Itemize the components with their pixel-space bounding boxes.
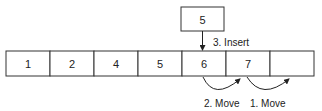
move-arrow-2 [203, 77, 240, 90]
array-cell-value: 7 [245, 58, 251, 70]
array: 124567 [6, 51, 314, 76]
array-cell [270, 51, 314, 76]
array-cell-value: 2 [69, 58, 75, 70]
move-label-2: 2. Move [204, 98, 240, 109]
insert-box-value: 5 [199, 14, 205, 26]
array-cell-value: 4 [113, 58, 119, 70]
move-arrow-1 [247, 77, 289, 90]
array-cell-value: 1 [25, 58, 31, 70]
move-label-1: 1. Move [250, 98, 286, 109]
array-cell-value: 6 [201, 58, 207, 70]
array-cell-value: 5 [157, 58, 163, 70]
insertion-diagram: 124567 5 3. Insert 2. Move 1. Move [0, 0, 322, 111]
insert-label: 3. Insert [213, 37, 249, 48]
